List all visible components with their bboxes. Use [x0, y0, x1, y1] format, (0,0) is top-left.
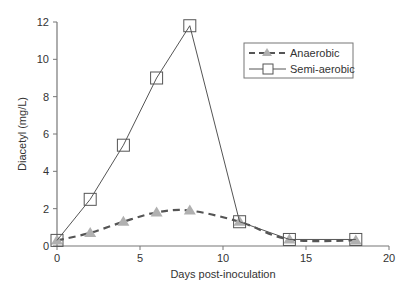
- x-axis-label: Days post-inoculation: [170, 268, 275, 280]
- legend: AnaerobicSemi-aerobic: [244, 43, 355, 78]
- y-tick-label: 0: [43, 240, 49, 252]
- x-tick-label: 10: [217, 252, 229, 264]
- y-tick-label: 12: [37, 16, 49, 28]
- y-tick-label: 4: [43, 165, 49, 177]
- x-tick-label: 20: [383, 252, 395, 264]
- series-line: [57, 210, 356, 241]
- y-tick-label: 8: [43, 91, 49, 103]
- legend-label: Anaerobic: [290, 47, 340, 59]
- y-tick-label: 6: [43, 128, 49, 140]
- legend-label: Semi-aerobic: [290, 63, 355, 75]
- x-tick-label: 15: [300, 252, 312, 264]
- series-anaerobic: [51, 205, 362, 245]
- y-tick-label: 10: [37, 53, 49, 65]
- diacetyl-line-chart: 02468101205101520 AnaerobicSemi-aerobic …: [0, 0, 411, 294]
- triangle-marker: [151, 206, 163, 216]
- x-tick-label: 0: [54, 252, 60, 264]
- y-axis-label: Diacetyl (mg/L): [16, 97, 28, 171]
- y-tick-label: 2: [43, 203, 49, 215]
- x-tick-label: 5: [137, 252, 143, 264]
